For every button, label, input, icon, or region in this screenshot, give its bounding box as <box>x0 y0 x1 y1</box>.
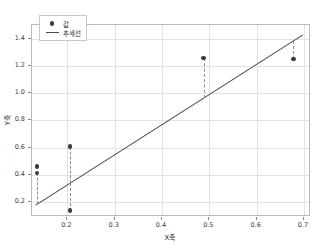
plot-area <box>31 24 310 216</box>
y-tick <box>28 174 31 175</box>
gridline-horizontal <box>32 120 309 121</box>
y-tick-label: 0.4 <box>15 170 25 178</box>
y-tick-label: 1.2 <box>15 61 25 69</box>
x-tick <box>66 217 67 220</box>
y-tick-label: 0.8 <box>15 115 25 123</box>
y-tick <box>28 201 31 202</box>
y-tick <box>28 92 31 93</box>
legend-item-trendline: 추세선 <box>44 28 81 37</box>
data-point <box>35 164 39 168</box>
gridline-horizontal <box>32 202 309 203</box>
y-tick <box>28 38 31 39</box>
x-tick-label: 0.3 <box>109 221 119 229</box>
x-axis-title: X축 <box>165 232 176 242</box>
x-tick-label: 0.6 <box>250 221 260 229</box>
scatter-chart-figure: 0.20.30.40.50.60.70.20.40.60.81.01.21.4 … <box>0 0 320 250</box>
gridline-horizontal <box>32 148 309 149</box>
x-tick <box>114 217 115 220</box>
line-marker-icon <box>44 32 60 33</box>
x-tick <box>303 217 304 220</box>
y-tick <box>28 119 31 120</box>
x-tick-label: 0.4 <box>156 221 166 229</box>
y-tick-label: 1.4 <box>15 34 25 42</box>
x-tick <box>208 217 209 220</box>
residual-line <box>70 147 71 183</box>
y-tick <box>28 65 31 66</box>
residual-line <box>204 58 205 98</box>
chart-legend: 값 추세선 <box>39 15 87 41</box>
y-tick-label: 0.2 <box>15 197 25 205</box>
y-axis-title: Y축 <box>2 115 12 125</box>
gridline-horizontal <box>32 93 309 94</box>
data-point <box>291 57 295 61</box>
x-tick-label: 0.5 <box>203 221 213 229</box>
residual-line <box>70 183 71 211</box>
y-tick-label: 1.0 <box>15 88 25 96</box>
legend-label-trendline: 추세선 <box>63 28 81 38</box>
x-tick-label: 0.2 <box>61 221 71 229</box>
data-point <box>201 56 205 60</box>
gridline-horizontal <box>32 175 309 176</box>
y-tick-label: 0.6 <box>15 143 25 151</box>
gridline-horizontal <box>32 66 309 67</box>
x-tick-label: 0.7 <box>298 221 308 229</box>
x-tick <box>161 217 162 220</box>
x-tick <box>256 217 257 220</box>
y-tick <box>28 147 31 148</box>
scatter-marker-icon <box>44 21 60 25</box>
residual-line <box>37 173 38 204</box>
